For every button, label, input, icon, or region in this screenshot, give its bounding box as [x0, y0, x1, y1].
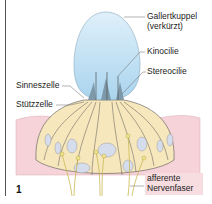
label-gallertkuppel-note: (verkürzt)	[147, 22, 183, 31]
label-afferente: afferente	[147, 174, 180, 183]
label-gallertkuppel: Gallertkuppel	[147, 12, 197, 21]
label-kinocilie: Kinocilie	[147, 47, 179, 56]
label-stuetzzelle: Stützzelle	[16, 100, 53, 109]
label-sinneszelle: Sinneszelle	[16, 81, 59, 90]
label-nervenfaser: Nervenfaser	[147, 184, 193, 193]
label-stereocilie: Stereocilie	[147, 67, 187, 76]
figure-number: 1	[16, 184, 22, 195]
